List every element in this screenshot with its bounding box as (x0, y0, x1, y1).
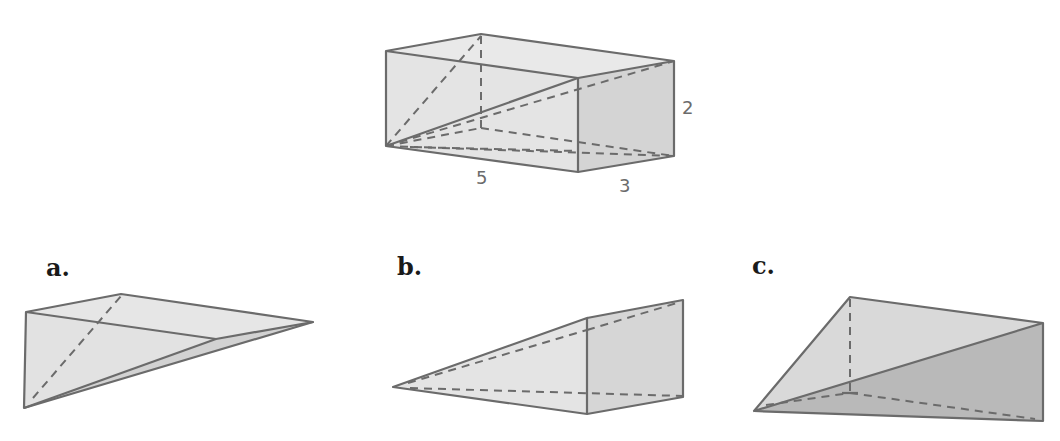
dimension-length-label: 5 (476, 167, 487, 188)
dimension-width-label: 3 (619, 175, 630, 196)
diagram-canvas: 5 3 2 a. b. c. (0, 0, 1060, 441)
option-a-label: a. (46, 253, 70, 282)
rectangular-prism: 5 3 2 (386, 34, 693, 196)
dimension-height-label: 2 (682, 97, 693, 118)
option-c[interactable]: c. (752, 251, 1043, 421)
option-c-label: c. (752, 251, 775, 280)
option-b-label: b. (397, 252, 422, 281)
option-b-side-face (587, 300, 683, 414)
option-a[interactable]: a. (24, 253, 313, 408)
option-b[interactable]: b. (393, 252, 683, 414)
